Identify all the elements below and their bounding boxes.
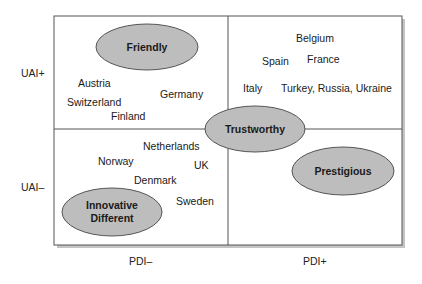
axis-label-pdi-minus: PDI– xyxy=(129,256,152,267)
cluster-label-prestigious: Prestigious xyxy=(314,165,371,178)
country-label: Austria xyxy=(78,78,111,89)
cluster-label-trustworthy: Trustworthy xyxy=(225,123,285,136)
country-label: Finland xyxy=(111,111,145,122)
country-label: Italy xyxy=(243,83,262,94)
cluster-label-different: Different xyxy=(86,212,138,225)
cluster-label-friendly: Friendly xyxy=(127,41,168,54)
country-label: Germany xyxy=(160,89,203,100)
uai-pdi-quadrant-diagram: UAI+ UAI– PDI– PDI+ Friendly Trustworthy… xyxy=(0,0,422,284)
country-label: Switzerland xyxy=(67,97,121,108)
cluster-label-innovative-different: Innovative Different xyxy=(86,199,138,225)
axis-label-uai-plus: UAI+ xyxy=(21,68,45,79)
cluster-label-innovative: Innovative xyxy=(86,199,138,212)
axis-label-uai-minus: UAI– xyxy=(21,182,44,193)
axis-label-pdi-plus: PDI+ xyxy=(303,256,327,267)
country-label: Turkey, Russia, Ukraine xyxy=(281,83,392,94)
country-label: Denmark xyxy=(134,175,177,186)
country-label: Belgium xyxy=(296,33,334,44)
country-label: France xyxy=(307,54,340,65)
country-label: Netherlands xyxy=(143,141,200,152)
country-label: Sweden xyxy=(176,196,214,207)
country-label: UK xyxy=(194,160,209,171)
country-label: Spain xyxy=(262,56,289,67)
diagram-graphics xyxy=(0,0,422,284)
country-label: Norway xyxy=(98,156,134,167)
